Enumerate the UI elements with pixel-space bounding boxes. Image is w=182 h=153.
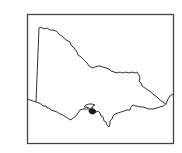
map-frame — [28, 15, 174, 144]
locator-map: Victoria, Australia outline Melbourne ar… — [0, 0, 182, 153]
